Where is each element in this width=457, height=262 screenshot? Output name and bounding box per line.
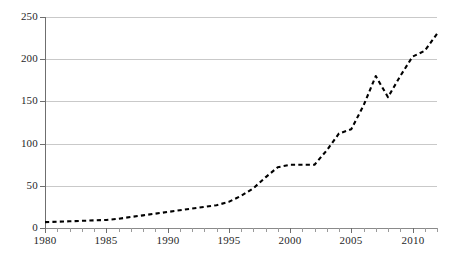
x-tick-label: 2010	[391, 234, 435, 246]
x-minor-tick-mark	[155, 228, 156, 232]
y-tick-label: 150	[0, 95, 38, 106]
x-minor-tick-mark	[204, 228, 205, 232]
x-minor-tick-mark	[327, 228, 328, 232]
x-tick-mark	[351, 228, 352, 233]
x-tick-mark	[413, 228, 414, 233]
x-tick-label: 1980	[23, 234, 67, 246]
x-tick-mark	[168, 228, 169, 233]
y-tick-label: 250	[0, 11, 38, 22]
x-minor-tick-mark	[364, 228, 365, 232]
y-tick-label: 100	[0, 138, 38, 149]
x-minor-tick-mark	[180, 228, 181, 232]
x-minor-tick-mark	[143, 228, 144, 232]
x-minor-tick-mark	[339, 228, 340, 232]
x-tick-label: 1995	[207, 234, 251, 246]
x-minor-tick-mark	[376, 228, 377, 232]
x-minor-tick-mark	[253, 228, 254, 232]
x-minor-tick-mark	[94, 228, 95, 232]
x-minor-tick-mark	[192, 228, 193, 232]
x-minor-tick-mark	[315, 228, 316, 232]
x-tick-label: 1985	[84, 234, 128, 246]
x-tick-mark	[290, 228, 291, 233]
x-minor-tick-mark	[302, 228, 303, 232]
x-minor-tick-mark	[400, 228, 401, 232]
x-minor-tick-mark	[131, 228, 132, 232]
x-minor-tick-mark	[425, 228, 426, 232]
x-tick-mark	[106, 228, 107, 233]
x-minor-tick-mark	[278, 228, 279, 232]
x-tick-label: 2000	[268, 234, 312, 246]
line-chart: 050100150200250 198019851990199520002005…	[0, 0, 457, 262]
data-series-line	[45, 17, 437, 228]
x-minor-tick-mark	[241, 228, 242, 232]
y-tick-label: 50	[0, 180, 38, 191]
x-tick-mark	[229, 228, 230, 233]
x-minor-tick-mark	[437, 228, 438, 232]
x-tick-mark	[45, 228, 46, 233]
x-tick-label: 1990	[146, 234, 190, 246]
y-tick-label: 0	[0, 222, 38, 233]
y-tick-label: 200	[0, 53, 38, 64]
x-minor-tick-mark	[388, 228, 389, 232]
x-minor-tick-mark	[82, 228, 83, 232]
x-minor-tick-mark	[217, 228, 218, 232]
plot-area	[45, 17, 437, 228]
x-minor-tick-mark	[70, 228, 71, 232]
x-minor-tick-mark	[266, 228, 267, 232]
x-minor-tick-mark	[119, 228, 120, 232]
x-tick-label: 2005	[329, 234, 373, 246]
x-minor-tick-mark	[57, 228, 58, 232]
